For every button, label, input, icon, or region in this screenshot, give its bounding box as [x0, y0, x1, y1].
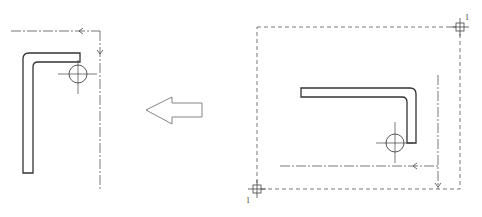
diagram-canvas: 1 1 [0, 0, 482, 217]
left-view [11, 28, 103, 190]
right-dashed-frame [257, 27, 460, 189]
right-view: 1 1 [246, 13, 469, 205]
left-hole-marker [58, 60, 97, 94]
corner-label-top-right: 1 [465, 13, 469, 22]
right-centerlines [280, 75, 438, 189]
corner-label-bottom-left: 1 [246, 196, 250, 205]
transform-arrow-left-icon [146, 97, 202, 124]
left-bent-part [23, 53, 80, 173]
corner-marker-bottom-left [248, 180, 266, 198]
